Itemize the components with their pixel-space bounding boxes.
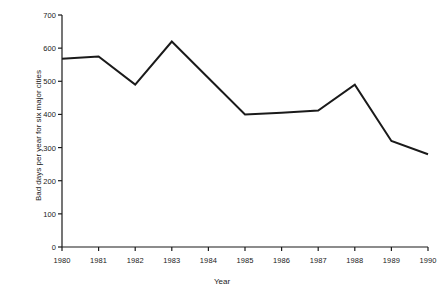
- x-tick-label: 1986: [273, 256, 290, 265]
- x-tick-label: 1990: [419, 256, 436, 265]
- x-tick-label: 1981: [90, 256, 107, 265]
- line-chart: 0100200300400500600700 19801981198219831…: [0, 0, 444, 295]
- x-tick-label: 1985: [236, 256, 253, 265]
- x-axis-title: Year: [0, 277, 444, 286]
- x-tick-label: 1982: [127, 256, 144, 265]
- x-tick-label: 1980: [53, 256, 70, 265]
- x-tick-label: 1989: [383, 256, 400, 265]
- x-tick-label: 1987: [310, 256, 327, 265]
- y-tick-label: 0: [18, 243, 56, 252]
- y-tick-label: 700: [18, 11, 56, 20]
- data-series-line: [62, 42, 428, 155]
- x-tick-label: 1983: [163, 256, 180, 265]
- x-axis-ticks: [62, 247, 428, 251]
- x-tick-label: 1988: [346, 256, 363, 265]
- axes: [62, 15, 428, 247]
- x-tick-label: 1984: [200, 256, 217, 265]
- y-axis-title: Bad days per year for six major cities: [34, 36, 43, 236]
- plot-area: [0, 0, 444, 295]
